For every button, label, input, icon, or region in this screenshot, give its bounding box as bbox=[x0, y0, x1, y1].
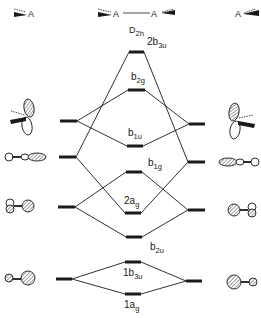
right-orbital-sp-in-icon bbox=[228, 203, 256, 217]
label-b2g: b2g bbox=[131, 71, 145, 85]
center-molecule-header: A A D2h bbox=[98, 9, 175, 38]
right-fragment-levels bbox=[186, 124, 205, 281]
left-fragment-levels bbox=[56, 121, 77, 279]
center-right-atom-label: A bbox=[151, 9, 157, 19]
label-2ag: 2ag bbox=[124, 195, 139, 209]
center-left-atom-label: A bbox=[113, 9, 119, 19]
molecular-orbital-levels bbox=[125, 52, 145, 294]
right-orbital-p-pi-icon bbox=[228, 102, 255, 139]
label-b2u: b2u bbox=[150, 241, 164, 255]
label-1ag: 1ag bbox=[124, 299, 139, 313]
wedge-bond-icon bbox=[98, 12, 112, 17]
label-2b3u: 2b3u bbox=[147, 36, 166, 50]
label-b1g: b1g bbox=[148, 157, 162, 171]
label-b1u: b1u bbox=[128, 127, 142, 141]
left-atom-label: A bbox=[28, 9, 34, 19]
label-1b3u: 1b3u bbox=[123, 267, 142, 281]
left-orbital-p-pi-icon bbox=[10, 98, 35, 135]
hashed-bond-icon bbox=[14, 9, 26, 12]
left-orbital-sp-in-icon bbox=[6, 199, 34, 213]
wedge-bond-icon bbox=[243, 10, 259, 16]
left-orbital-sp-out-icon bbox=[5, 153, 46, 161]
left-orbital-s-icon bbox=[5, 271, 35, 285]
wedge-bond-icon bbox=[14, 12, 27, 17]
hashed-bond-icon bbox=[98, 9, 111, 12]
right-orbital-s-icon bbox=[227, 275, 257, 289]
right-atom-label: A bbox=[235, 9, 241, 19]
mo-correlation-diagram: A A A D2h A bbox=[0, 0, 261, 318]
right-fragment-header: A bbox=[235, 9, 259, 19]
point-group-label: D2h bbox=[129, 25, 144, 38]
right-orbital-sp-out-icon bbox=[219, 158, 259, 166]
left-fragment-header: A bbox=[14, 9, 34, 19]
